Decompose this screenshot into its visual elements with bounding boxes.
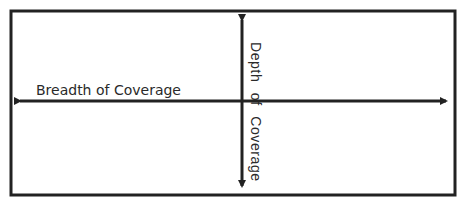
depth-label: Depth of Coverage [248, 42, 264, 182]
depth-label-text: Depth of Coverage [248, 42, 264, 182]
breadth-label: Breadth of Coverage [36, 82, 181, 98]
coverage-diagram [0, 0, 462, 203]
frame-rectangle [11, 11, 455, 195]
